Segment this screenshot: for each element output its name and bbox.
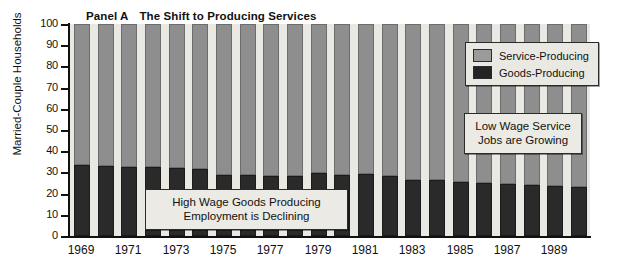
bar-segment-goods-1970 (98, 166, 114, 236)
x-tick-label-1987: 1987 (487, 243, 527, 257)
bar-segment-goods-1971 (121, 167, 137, 236)
x-tick-label-1975: 1975 (203, 243, 243, 257)
x-tick-label-1985: 1985 (440, 243, 480, 257)
y-tick-label-60: 60 (32, 102, 58, 114)
bar-1971 (121, 24, 137, 236)
y-tick-60 (61, 109, 69, 111)
panel-label: Panel A (86, 10, 128, 22)
y-tick-30 (61, 172, 69, 174)
y-tick-label-80: 80 (32, 59, 58, 71)
bar-segment-goods-1984 (429, 180, 445, 236)
bar-segment-goods-1988 (524, 185, 540, 236)
annotation-goods-line-1: High Wage Goods Producing (150, 195, 343, 209)
bar-segment-service-1980 (334, 24, 350, 175)
x-tick-label-1971: 1971 (108, 243, 148, 257)
y-tick-20 (61, 194, 69, 196)
bar-segment-service-1975 (216, 24, 232, 175)
y-tick-40 (61, 151, 69, 153)
legend-swatch-goods-icon (473, 66, 492, 79)
bar-segment-service-1970 (98, 24, 114, 166)
bar-segment-service-1983 (405, 24, 421, 180)
x-tick-label-1981: 1981 (345, 243, 385, 257)
y-axis-title: Married-Couple Households (11, 0, 23, 184)
x-tick-label-1973: 1973 (156, 243, 196, 257)
bar-1970 (98, 24, 114, 236)
bar-segment-service-1979 (311, 24, 327, 173)
x-tick-label-1989: 1989 (534, 243, 574, 257)
bar-segment-goods-1986 (476, 183, 492, 236)
y-tick-50 (61, 130, 69, 132)
bar-segment-goods-1985 (453, 182, 469, 236)
y-tick-90 (61, 45, 69, 47)
bar-segment-service-1978 (287, 24, 303, 176)
x-tick-label-1977: 1977 (250, 243, 290, 257)
bar-segment-service-1981 (358, 24, 374, 174)
bar-segment-goods-1981 (358, 174, 374, 236)
y-tick-label-70: 70 (32, 81, 58, 93)
y-tick-80 (61, 66, 69, 68)
annotation-goods-line-2: Employment is Declining (150, 209, 343, 223)
legend-label-service: Service-Producing (499, 50, 589, 62)
annotation-goods-producing: High Wage Goods Producing Employment is … (145, 189, 348, 230)
x-tick-label-1983: 1983 (392, 243, 432, 257)
y-tick-label-50: 50 (32, 123, 58, 135)
legend-item-goods: Goods-Producing (473, 65, 589, 80)
title-text: The Shift to Producing Services (139, 10, 316, 22)
bar-segment-service-1976 (240, 24, 256, 175)
bar-segment-service-1974 (192, 24, 208, 169)
bar-1982 (382, 24, 398, 236)
bar-segment-service-1982 (382, 24, 398, 176)
bar-segment-service-1977 (263, 24, 279, 176)
y-tick-10 (61, 215, 69, 217)
y-tick-label-30: 30 (32, 165, 58, 177)
bar-segment-goods-1987 (500, 184, 516, 236)
chart-legend: Service-Producing Goods-Producing (465, 42, 599, 86)
chart-title: Panel AThe Shift to Producing Services (86, 10, 316, 22)
bar-segment-goods-1983 (405, 180, 421, 236)
bar-1983 (405, 24, 421, 236)
y-tick-label-20: 20 (32, 187, 58, 199)
y-axis-ticks: 0102030405060708090100 (28, 0, 58, 273)
y-tick-label-0: 0 (32, 229, 58, 241)
annotation-service-line-1: Low Wage Service (469, 119, 577, 133)
bar-1969 (74, 24, 90, 236)
annotation-service-line-2: Jobs are Growing (469, 133, 577, 147)
bar-segment-service-1969 (74, 24, 90, 165)
y-tick-70 (61, 88, 69, 90)
bar-segment-goods-1990 (571, 187, 587, 236)
bar-1984 (429, 24, 445, 236)
bar-segment-service-1971 (121, 24, 137, 167)
bar-segment-service-1984 (429, 24, 445, 180)
x-tick-label-1969: 1969 (61, 243, 101, 257)
bar-segment-goods-1969 (74, 165, 90, 236)
bar-segment-goods-1989 (547, 186, 563, 236)
y-tick-label-100: 100 (32, 17, 58, 29)
annotation-service-producing: Low Wage Service Jobs are Growing (464, 113, 582, 154)
y-tick-100 (61, 24, 69, 26)
chart-figure: 0102030405060708090100 Married-Couple Ho… (0, 0, 618, 273)
y-tick-0 (61, 236, 69, 238)
x-axis-line (68, 236, 591, 238)
x-tick-label-1979: 1979 (298, 243, 338, 257)
bar-segment-service-1973 (169, 24, 185, 168)
bar-segment-goods-1982 (382, 176, 398, 236)
y-tick-label-40: 40 (32, 144, 58, 156)
legend-swatch-service-icon (473, 49, 492, 62)
y-tick-label-90: 90 (32, 38, 58, 50)
legend-item-service: Service-Producing (473, 48, 589, 63)
y-tick-label-10: 10 (32, 208, 58, 220)
bar-segment-service-1972 (145, 24, 161, 167)
bar-1981 (358, 24, 374, 236)
legend-label-goods: Goods-Producing (499, 67, 585, 79)
